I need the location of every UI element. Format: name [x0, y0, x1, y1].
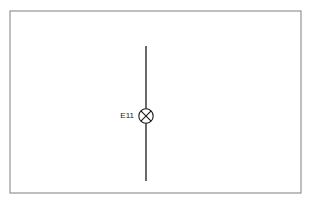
component-lamp-e11[interactable]	[139, 109, 153, 123]
diagram-frame	[10, 11, 301, 193]
circuit-diagram: E11	[0, 0, 311, 208]
component-label-e11: E11	[120, 111, 134, 120]
diagram-canvas: E11	[0, 0, 311, 208]
